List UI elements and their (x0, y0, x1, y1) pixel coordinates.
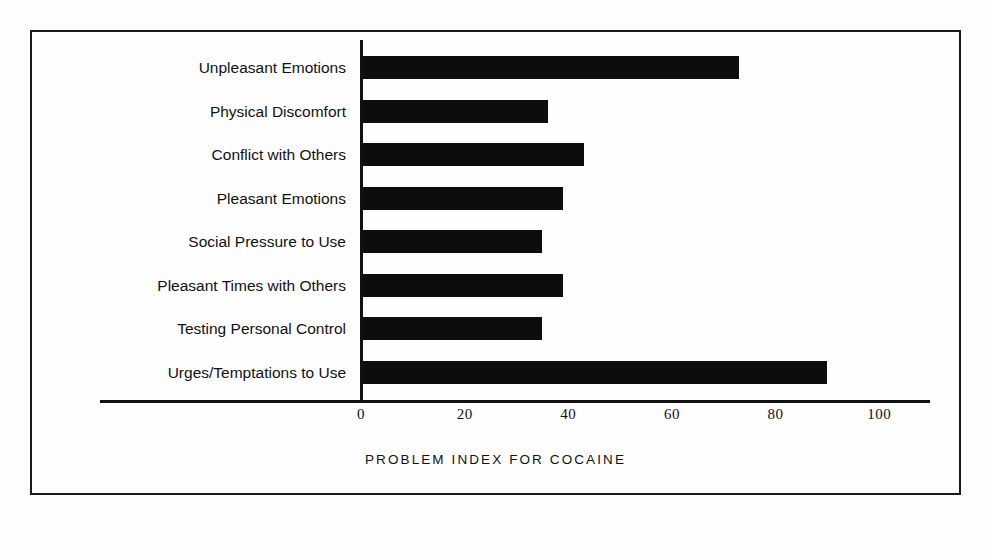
bar-row (361, 351, 931, 395)
bar-row (361, 307, 931, 351)
category-row: Urges/Temptations to Use (32, 351, 354, 395)
x-tick-label: 100 (867, 406, 891, 423)
category-label: Urges/Temptations to Use (168, 365, 346, 381)
category-row: Conflict with Others (32, 133, 354, 177)
bar-series (361, 46, 931, 394)
scanned-page: Unpleasant Emotions Physical Discomfort … (0, 0, 991, 558)
bar-chart-plot: Unpleasant Emotions Physical Discomfort … (32, 32, 959, 493)
x-axis-title: PROBLEM INDEX FOR COCAINE (32, 452, 959, 467)
x-tick-label: 40 (560, 406, 576, 423)
category-row: Social Pressure to Use (32, 220, 354, 264)
bar (361, 230, 542, 253)
x-axis-line (100, 400, 930, 403)
category-label: Social Pressure to Use (188, 234, 346, 250)
category-label: Physical Discomfort (210, 104, 346, 120)
category-axis-labels: Unpleasant Emotions Physical Discomfort … (32, 46, 354, 394)
bar (361, 274, 563, 297)
bar (361, 187, 563, 210)
y-axis-line (360, 40, 363, 400)
bar-row (361, 90, 931, 134)
bar-row (361, 264, 931, 308)
x-tick-label: 60 (664, 406, 680, 423)
category-label: Unpleasant Emotions (199, 60, 346, 76)
category-label: Conflict with Others (212, 147, 346, 163)
category-label: Pleasant Times with Others (157, 278, 346, 294)
bar-row (361, 220, 931, 264)
x-axis-tick-labels: 0 20 40 60 80 100 (32, 406, 959, 432)
category-label: Pleasant Emotions (217, 191, 346, 207)
category-row: Pleasant Emotions (32, 177, 354, 221)
category-row: Unpleasant Emotions (32, 46, 354, 90)
figure-frame: Unpleasant Emotions Physical Discomfort … (30, 30, 961, 495)
category-label: Testing Personal Control (177, 321, 346, 337)
bar-row (361, 177, 931, 221)
bar (361, 100, 548, 123)
bar (361, 361, 827, 384)
bar (361, 143, 584, 166)
category-row: Pleasant Times with Others (32, 264, 354, 308)
category-row: Testing Personal Control (32, 307, 354, 351)
bar (361, 56, 739, 79)
category-row: Physical Discomfort (32, 90, 354, 134)
x-tick-label: 0 (357, 406, 365, 423)
bar-row (361, 133, 931, 177)
x-tick-label: 20 (457, 406, 473, 423)
x-tick-label: 80 (768, 406, 784, 423)
bar (361, 317, 542, 340)
bar-row (361, 46, 931, 90)
